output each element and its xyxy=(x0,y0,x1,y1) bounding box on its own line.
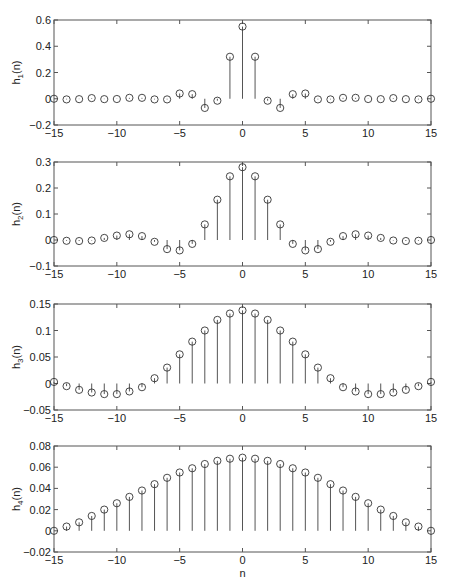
y-tick-label: 0.4 xyxy=(36,40,51,52)
y-tick-label: 0.05 xyxy=(30,351,51,363)
subplot-4: −15−10−5051015−0.0200.020.040.060.08h4(n… xyxy=(10,440,437,579)
x-tick-label: −10 xyxy=(107,127,126,139)
x-tick-label: 0 xyxy=(239,554,245,566)
y-tick-label: 0.1 xyxy=(36,325,51,337)
y-label-tail: (n) xyxy=(10,345,22,358)
y-tick-label: −0.2 xyxy=(29,119,51,131)
y-label-tail: (n) xyxy=(10,202,22,215)
y-tick-label: 0.2 xyxy=(36,182,51,194)
y-tick-label: 0.02 xyxy=(30,504,51,516)
subplot-3: −15−10−5051015−0.0500.050.10.15h3(n) xyxy=(10,298,437,424)
y-tick-label: 0.3 xyxy=(36,156,51,168)
stem-plots-figure: −15−10−5051015−0.200.20.40.6h1(n)−15−10−… xyxy=(0,0,451,587)
x-tick-label: 5 xyxy=(302,268,308,280)
x-tick-label: 0 xyxy=(239,268,245,280)
x-tick-label: −5 xyxy=(173,268,186,280)
y-tick-label: 0.06 xyxy=(30,461,51,473)
x-axis-label: n xyxy=(239,567,245,579)
x-tick-label: 5 xyxy=(302,412,308,424)
x-tick-label: 15 xyxy=(425,268,437,280)
y-label-tail: (n) xyxy=(10,60,22,73)
y-axis-label: h2(n) xyxy=(10,202,25,226)
y-label-tail: (n) xyxy=(10,487,22,500)
stem-marker xyxy=(101,234,108,241)
x-tick-label: 10 xyxy=(362,127,374,139)
x-tick-label: 15 xyxy=(425,412,437,424)
y-tick-label: −0.02 xyxy=(23,546,51,558)
x-tick-label: 10 xyxy=(362,412,374,424)
x-tick-label: 10 xyxy=(362,554,374,566)
y-tick-label: 0.08 xyxy=(30,440,51,452)
y-tick-label: 0 xyxy=(45,378,51,390)
x-tick-label: 15 xyxy=(425,554,437,566)
x-tick-label: −10 xyxy=(107,412,126,424)
stem-marker xyxy=(377,234,384,241)
x-tick-label: −5 xyxy=(173,127,186,139)
x-tick-label: 15 xyxy=(425,127,437,139)
x-tick-label: −10 xyxy=(107,554,126,566)
y-axis-label: h3(n) xyxy=(10,345,25,369)
y-tick-label: −0.05 xyxy=(23,404,51,416)
y-tick-label: 0.2 xyxy=(36,67,51,79)
x-tick-label: 5 xyxy=(302,127,308,139)
x-tick-label: 0 xyxy=(239,412,245,424)
y-tick-label: 0.6 xyxy=(36,14,51,26)
subplot-1: −15−10−5051015−0.200.20.40.6h1(n) xyxy=(10,14,437,139)
y-axis-label: h1(n) xyxy=(10,60,25,84)
x-tick-label: 5 xyxy=(302,554,308,566)
subplot-2: −15−10−5051015−0.100.10.20.3h2(n) xyxy=(10,156,437,280)
y-tick-label: 0.04 xyxy=(30,482,51,494)
x-tick-label: −5 xyxy=(173,412,186,424)
x-tick-label: −5 xyxy=(173,554,186,566)
x-tick-label: 0 xyxy=(239,127,245,139)
x-tick-label: 10 xyxy=(362,268,374,280)
y-tick-label: 0.15 xyxy=(30,298,51,310)
y-tick-label: −0.1 xyxy=(29,260,51,272)
x-tick-label: −10 xyxy=(107,268,126,280)
y-axis-label: h4(n) xyxy=(10,487,25,511)
y-tick-label: 0.1 xyxy=(36,208,51,220)
